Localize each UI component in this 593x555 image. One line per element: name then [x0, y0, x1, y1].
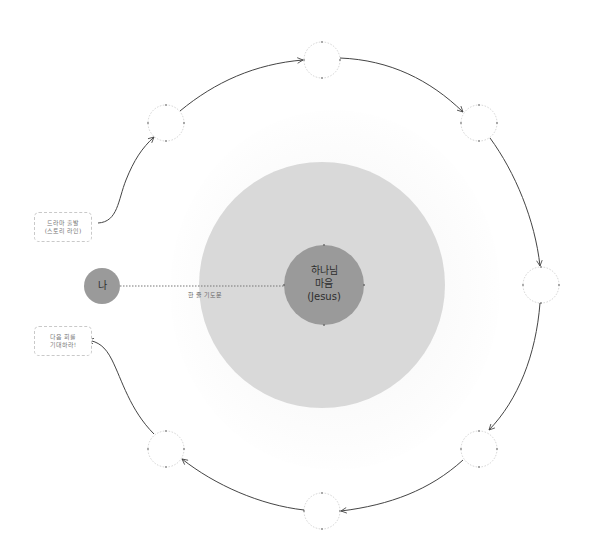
start-storyline-box[interactable]: 드라마 출발 (스토리 라인)	[34, 212, 92, 242]
cycle-node-bottom-left[interactable]	[148, 431, 184, 467]
prayer-connector-label: 한 줄 기도문	[188, 290, 222, 299]
cycle-node-bottom-right[interactable]	[461, 431, 497, 467]
center-label-line1: 하나님	[284, 264, 364, 277]
center-label: 하나님 마음 (Jesus)	[284, 264, 364, 303]
arrow-start-to-top-left	[98, 137, 154, 223]
start-box-line2: (스토리 라인)	[45, 227, 82, 235]
arrow-top-right-to-right	[490, 138, 540, 266]
arrow-bottom-right-to-bottom	[341, 460, 463, 511]
cycle-node-top[interactable]	[304, 42, 340, 78]
center-label-line3: (Jesus)	[284, 290, 364, 303]
cycle-node-top-right[interactable]	[461, 105, 497, 141]
next-episode-box[interactable]: 다음 회를 기대하라!	[34, 326, 92, 356]
arrow-bottom-to-bottom-left	[182, 459, 304, 510]
start-box-line1: 드라마 출발	[47, 219, 79, 227]
cycle-node-bottom[interactable]	[304, 493, 340, 529]
cycle-node-top-left[interactable]	[148, 105, 184, 141]
cycle-node-right[interactable]	[523, 267, 559, 303]
arrow-right-to-bottom-right	[489, 303, 540, 430]
self-node-label: 나	[84, 279, 120, 293]
arrow-bottom-left-to-end	[88, 340, 154, 434]
arrow-top-to-top-right	[340, 58, 463, 112]
end-box-line2: 기대하라!	[50, 341, 76, 349]
arrow-top-left-to-top	[180, 60, 303, 111]
center-label-line2: 마음	[284, 277, 364, 290]
end-box-line1: 다음 회를	[50, 333, 76, 341]
